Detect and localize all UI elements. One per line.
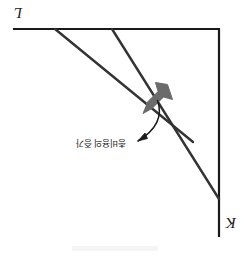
isocost-line-outer <box>112 29 219 199</box>
diagram-canvas <box>0 0 245 256</box>
page-smudge <box>72 246 158 251</box>
annotation-label-total-cost-increase: 총비용의 증가 <box>71 137 131 147</box>
axis-label-l: L <box>14 5 22 20</box>
axis-label-k: K <box>226 215 236 230</box>
isocost-diagram: L K 총비용의 증가 <box>0 0 245 256</box>
